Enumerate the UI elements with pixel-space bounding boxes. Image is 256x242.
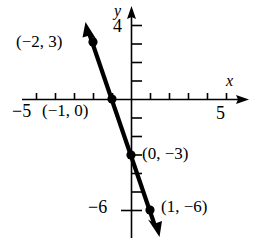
point-1-neg6 xyxy=(145,205,154,214)
y-tick-label-4: 4 xyxy=(113,17,122,35)
point-label-0-neg3: (0, −3) xyxy=(142,145,188,162)
point-label-neg1-0: (−1, 0) xyxy=(42,102,88,119)
point-label-1-neg6: (1, −6) xyxy=(161,198,207,215)
point-neg2-3 xyxy=(88,37,97,46)
point-0-neg3 xyxy=(126,150,135,159)
point-neg1-0 xyxy=(107,94,116,103)
y-tick-label-neg6: −6 xyxy=(88,198,107,216)
y-axis xyxy=(127,6,136,238)
x-tick-label-5: 5 xyxy=(216,104,225,122)
graph-figure: y x 4 −5 5 −6 (−2, 3) (−1, 0) (0, −3) (1… xyxy=(0,0,256,242)
point-label-neg2-3: (−2, 3) xyxy=(16,33,62,50)
x-axis-label: x xyxy=(226,73,233,89)
x-tick-label-neg5: −5 xyxy=(12,102,31,120)
